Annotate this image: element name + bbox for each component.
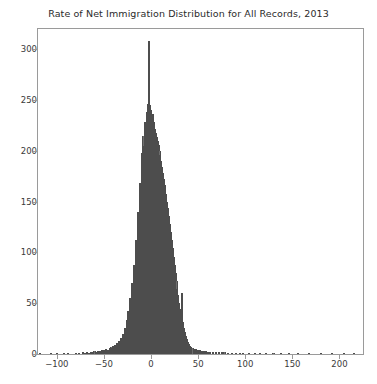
histogram-bar	[308, 353, 310, 354]
y-tick-mark	[33, 49, 37, 50]
x-tick-label: −50	[84, 359, 124, 369]
x-tick-mark	[104, 355, 105, 359]
x-tick-label: 100	[225, 359, 265, 369]
histogram-bar	[223, 352, 225, 354]
y-tick-mark	[33, 252, 37, 253]
histogram-bar	[39, 353, 41, 354]
histogram-bar	[218, 352, 220, 354]
x-axis: −100−50050100150200	[0, 355, 377, 384]
y-tick-mark	[33, 202, 37, 203]
x-tick-mark	[339, 355, 340, 359]
histogram-bar	[265, 353, 267, 354]
histogram-bar	[254, 353, 256, 354]
histogram-bar	[248, 353, 250, 354]
x-tick-mark	[292, 355, 293, 359]
histogram-bar	[239, 353, 241, 354]
x-tick-mark	[57, 355, 58, 359]
histogram-bar	[231, 353, 233, 354]
histogram-bar	[207, 352, 209, 354]
histogram-bar	[221, 352, 223, 354]
histogram-bar	[209, 352, 211, 354]
histogram-bar	[297, 353, 299, 354]
x-tick-label: −100	[37, 359, 77, 369]
histogram-bar	[235, 353, 237, 354]
x-tick-label: 0	[131, 359, 171, 369]
histogram-bar	[259, 353, 261, 354]
histogram-figure: Rate of Net Immigration Distribution for…	[0, 0, 377, 384]
histogram-bar	[50, 353, 52, 354]
histogram-bar	[288, 353, 290, 354]
x-tick-label: 50	[178, 359, 218, 369]
histogram-bar	[280, 353, 282, 354]
histogram-bar	[242, 353, 244, 354]
x-tick-label: 150	[272, 359, 312, 369]
histogram-bar	[67, 353, 69, 354]
x-tick-mark	[198, 355, 199, 359]
histogram-bar	[215, 352, 217, 354]
histogram-bar	[75, 353, 77, 354]
chart-title: Rate of Net Immigration Distribution for…	[0, 8, 377, 19]
x-tick-label: 200	[319, 359, 359, 369]
x-tick-mark	[151, 355, 152, 359]
histogram-bar	[343, 353, 345, 354]
histogram-bar	[63, 353, 65, 354]
y-tick-mark	[33, 100, 37, 101]
histogram-bar	[353, 353, 355, 354]
histogram-bar	[56, 353, 58, 354]
y-tick-mark	[33, 151, 37, 152]
y-tick-mark	[33, 303, 37, 304]
plot-area	[38, 29, 363, 354]
histogram-bar	[272, 353, 274, 354]
histogram-bar	[331, 353, 333, 354]
histogram-bar	[212, 352, 214, 354]
y-axis: 050100150200250300	[0, 0, 37, 384]
x-tick-mark	[245, 355, 246, 359]
histogram-bar	[227, 353, 229, 354]
histogram-bar	[78, 353, 80, 354]
histogram-bar	[320, 353, 322, 354]
